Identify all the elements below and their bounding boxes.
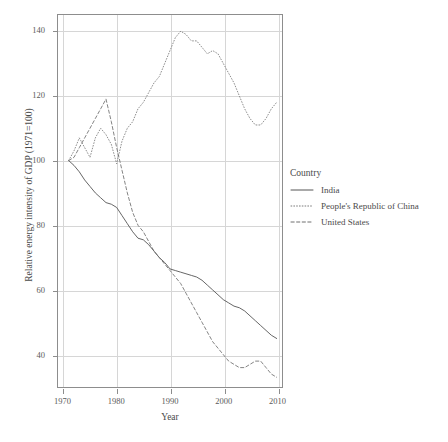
legend-swatch-solid xyxy=(290,185,314,195)
x-tick-label: 1990 xyxy=(162,396,179,406)
y-tick-label: 120 xyxy=(0,90,45,100)
series-line xyxy=(69,99,277,377)
legend-swatch-dotted xyxy=(290,201,314,211)
plot-area xyxy=(57,14,283,388)
legend-label: People's Republic of China xyxy=(321,201,419,211)
y-tick-label: 140 xyxy=(0,25,45,35)
y-tick-label: 80 xyxy=(0,220,45,230)
series-line xyxy=(69,31,277,164)
legend-entries: IndiaPeople's Republic of ChinaUnited St… xyxy=(290,185,440,227)
x-axis-title: Year xyxy=(57,412,283,422)
legend-entry[interactable]: United States xyxy=(290,217,440,227)
x-tick xyxy=(171,389,172,394)
x-tick xyxy=(63,389,64,394)
x-tick-label: 2010 xyxy=(269,396,286,406)
legend-swatch-dashed xyxy=(290,217,314,227)
chart-root: 406080100120140 19701980199020002010 Yea… xyxy=(0,0,448,442)
legend-entry[interactable]: India xyxy=(290,185,440,195)
legend-label: United States xyxy=(321,217,369,227)
y-tick-label: 40 xyxy=(0,350,45,360)
x-tick-label: 2000 xyxy=(215,396,232,406)
x-tick-label: 1970 xyxy=(54,396,71,406)
legend: Country IndiaPeople's Republic of ChinaU… xyxy=(290,168,440,233)
x-tick xyxy=(225,389,226,394)
series-lines xyxy=(58,15,282,387)
legend-entry[interactable]: People's Republic of China xyxy=(290,201,440,211)
y-tick-label: 100 xyxy=(0,155,45,165)
y-axis-title: Relative energy intensity of GDP (1971=1… xyxy=(24,90,34,300)
y-tick-label: 60 xyxy=(0,285,45,295)
series-line xyxy=(69,161,277,339)
x-tick xyxy=(117,389,118,394)
x-tick-label: 1980 xyxy=(108,396,125,406)
legend-title: Country xyxy=(290,168,440,178)
x-tick xyxy=(279,389,280,394)
legend-label: India xyxy=(321,185,340,195)
